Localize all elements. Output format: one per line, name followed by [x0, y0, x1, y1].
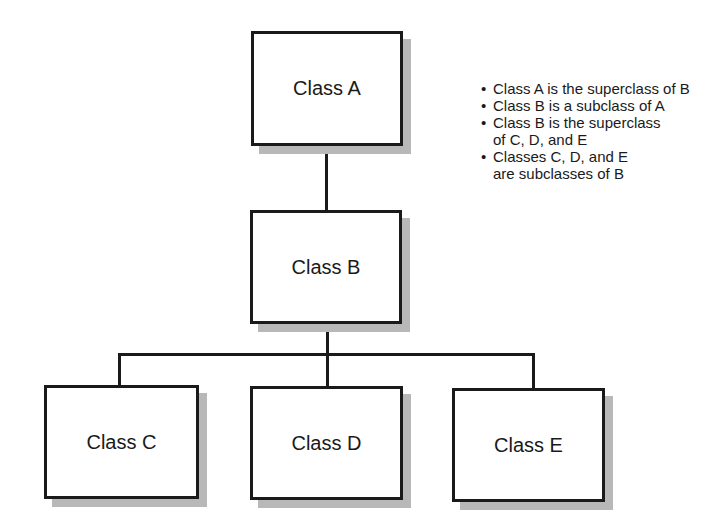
note-item: Class A is the superclass of B: [481, 80, 690, 97]
connector-to-c: [118, 353, 121, 386]
note-text: Class A is the superclass of B: [493, 80, 690, 97]
class-b-box: Class B: [250, 210, 402, 324]
class-a-label: Class A: [293, 77, 361, 100]
note-text: Class B is the superclass of C, D, and E: [493, 114, 661, 148]
note-text: Class B is a subclass of A: [493, 97, 665, 114]
class-c-label: Class C: [86, 431, 156, 454]
note-item: Class B is a subclass of A: [481, 97, 690, 114]
class-d-label: Class D: [291, 432, 361, 455]
class-c-box: Class C: [44, 385, 199, 499]
connector-horizontal-bar: [118, 353, 535, 356]
note-item: Class B is the superclass of C, D, and E: [481, 114, 690, 148]
class-a-box: Class A: [251, 31, 403, 146]
class-e-box: Class E: [452, 388, 605, 502]
connector-a-b: [325, 146, 328, 211]
note-text: Classes C, D, and E are subclasses of B: [493, 148, 628, 182]
note-item: Classes C, D, and E are subclasses of B: [481, 148, 690, 182]
connector-to-e: [532, 353, 535, 389]
class-b-label: Class B: [292, 256, 361, 279]
class-d-box: Class D: [250, 386, 403, 500]
class-e-label: Class E: [494, 434, 563, 457]
relationship-notes: Class A is the superclass of B Class B i…: [481, 80, 690, 182]
